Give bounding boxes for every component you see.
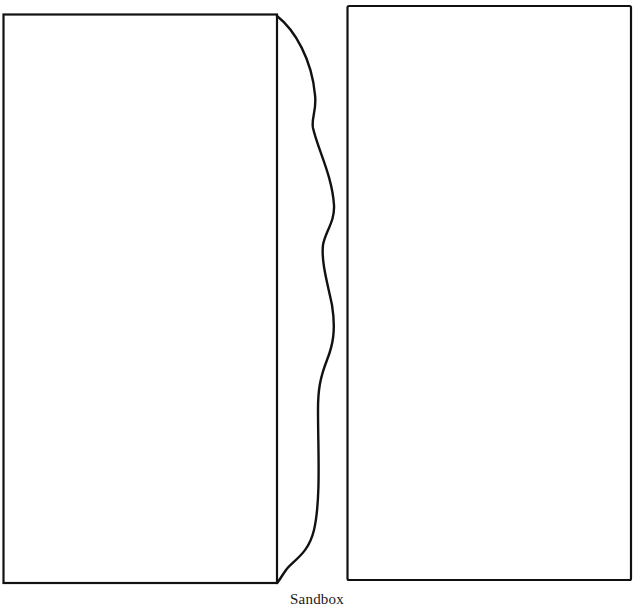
figure-caption: Sandbox (0, 591, 634, 608)
sandbox-diagram (0, 0, 634, 616)
left-panel (4, 15, 278, 584)
right-panel (348, 6, 632, 580)
wavy-boundary-curve (277, 16, 334, 583)
